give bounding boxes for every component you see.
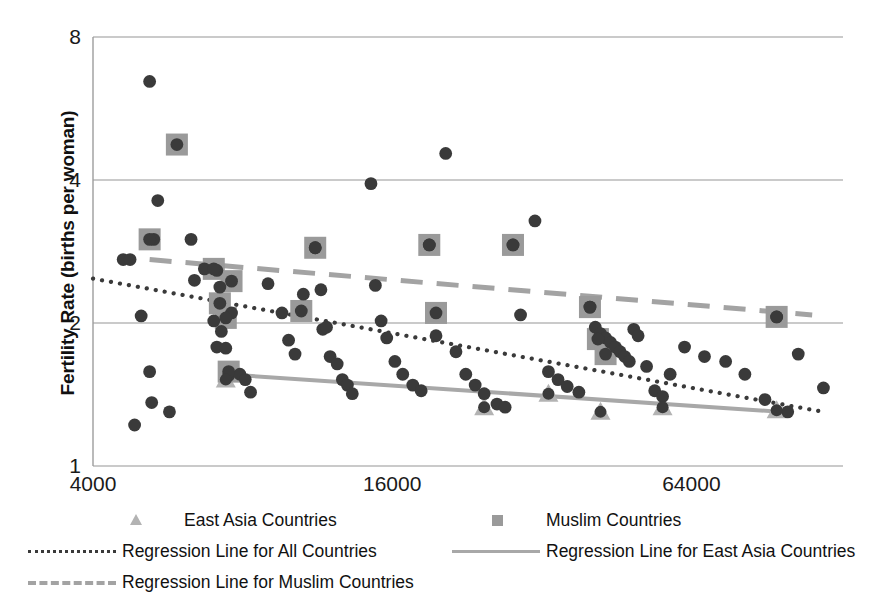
data-point-country xyxy=(244,386,257,399)
data-point-country xyxy=(163,405,176,418)
data-point-country xyxy=(282,334,295,347)
data-point-country xyxy=(592,333,605,346)
data-point-country xyxy=(459,368,472,381)
data-point-country xyxy=(514,309,527,322)
dashed-line-icon xyxy=(28,572,116,592)
data-point-country xyxy=(678,341,691,354)
data-point-country xyxy=(151,194,164,207)
data-point-country xyxy=(215,325,228,338)
data-point-country xyxy=(792,348,805,361)
data-point-country xyxy=(380,332,393,345)
data-point-country xyxy=(771,404,783,416)
data-point-country xyxy=(375,315,388,328)
data-point-country xyxy=(396,368,409,381)
data-point-country xyxy=(145,396,158,409)
data-point-country xyxy=(143,233,156,246)
data-point-country xyxy=(289,348,302,361)
data-point-country xyxy=(365,177,378,190)
data-point-country xyxy=(346,387,359,400)
square-marker-icon xyxy=(452,510,540,530)
data-point-country xyxy=(561,380,574,393)
data-point-country xyxy=(309,241,322,254)
data-point-country xyxy=(185,233,198,246)
data-point-country xyxy=(315,283,328,296)
data-point-country xyxy=(262,277,275,290)
legend-label-east-asia-countries: East Asia Countries xyxy=(184,510,337,530)
data-point-country xyxy=(225,275,238,288)
data-point-country xyxy=(698,350,711,363)
triangle-marker-icon xyxy=(90,510,178,530)
data-point-country xyxy=(759,393,772,406)
data-point-country xyxy=(135,310,148,323)
legend-item-regression-muslim[interactable]: Regression Line for Muslim Countries xyxy=(28,571,414,592)
legend-item-east-asia-countries[interactable]: East Asia Countries xyxy=(90,509,337,530)
data-point-country xyxy=(738,368,751,381)
data-point-country xyxy=(320,321,333,334)
data-point-country xyxy=(207,262,220,275)
data-point-country xyxy=(656,390,669,403)
data-point-country xyxy=(128,419,141,432)
data-point-country xyxy=(584,301,597,314)
data-point-country xyxy=(170,138,183,151)
data-point-country xyxy=(430,329,443,342)
solid-line-icon xyxy=(452,541,540,561)
data-point-country xyxy=(207,315,220,328)
data-point-country xyxy=(297,288,310,301)
data-point-country xyxy=(439,147,452,160)
data-point-country xyxy=(640,360,653,373)
data-point-country xyxy=(369,279,382,292)
data-point-country xyxy=(276,307,289,320)
data-point-country xyxy=(239,373,252,386)
data-point-country xyxy=(542,388,554,400)
legend-label-muslim-countries: Muslim Countries xyxy=(546,510,681,530)
data-point-country xyxy=(594,406,606,418)
data-point-country xyxy=(213,297,226,310)
dotted-line-icon xyxy=(28,541,116,561)
data-point-country xyxy=(415,384,428,397)
regression-line-1 xyxy=(150,260,813,315)
data-point-country xyxy=(599,348,612,361)
legend-label-regression-muslim: Regression Line for Muslim Countries xyxy=(122,572,414,592)
legend-item-regression-east-asia[interactable]: Regression Line for East Asia Countries xyxy=(452,540,855,561)
fertility-rate-scatter-chart: Fertility Rate (births per woman) 8421 4… xyxy=(0,0,893,604)
data-point-country xyxy=(423,239,436,252)
data-point-country xyxy=(143,75,156,88)
data-point-country xyxy=(219,342,232,355)
data-point-country xyxy=(188,274,201,287)
data-point-country xyxy=(478,387,491,400)
data-point-country xyxy=(781,405,794,418)
data-point-country xyxy=(213,281,226,294)
data-point-country xyxy=(220,374,232,386)
data-point-country xyxy=(770,311,783,324)
data-point-country xyxy=(331,358,344,371)
data-point-country xyxy=(219,312,232,325)
legend-item-regression-all-countries[interactable]: Regression Line for All Countries xyxy=(28,540,377,561)
data-point-country xyxy=(817,382,830,395)
data-point-country xyxy=(507,239,520,252)
data-point-country xyxy=(572,386,585,399)
data-point-country xyxy=(623,355,636,368)
chart-legend: East Asia Countries Muslim Countries Reg… xyxy=(0,497,893,604)
data-point-country xyxy=(450,345,463,358)
data-point-country xyxy=(719,355,732,368)
data-point-country xyxy=(295,305,308,318)
data-point-country xyxy=(664,368,677,381)
data-point-country xyxy=(657,401,669,413)
data-point-country xyxy=(388,355,401,368)
data-point-country xyxy=(430,307,443,320)
legend-item-muslim-countries[interactable]: Muslim Countries xyxy=(452,509,681,530)
data-point-country xyxy=(632,329,645,342)
data-point-country xyxy=(143,365,156,378)
legend-label-regression-all-countries: Regression Line for All Countries xyxy=(122,541,377,561)
legend-label-regression-east-asia: Regression Line for East Asia Countries xyxy=(546,541,855,561)
data-point-country xyxy=(529,215,542,228)
data-point-country xyxy=(478,401,490,413)
data-point-country xyxy=(499,401,512,414)
data-point-country xyxy=(124,253,137,266)
